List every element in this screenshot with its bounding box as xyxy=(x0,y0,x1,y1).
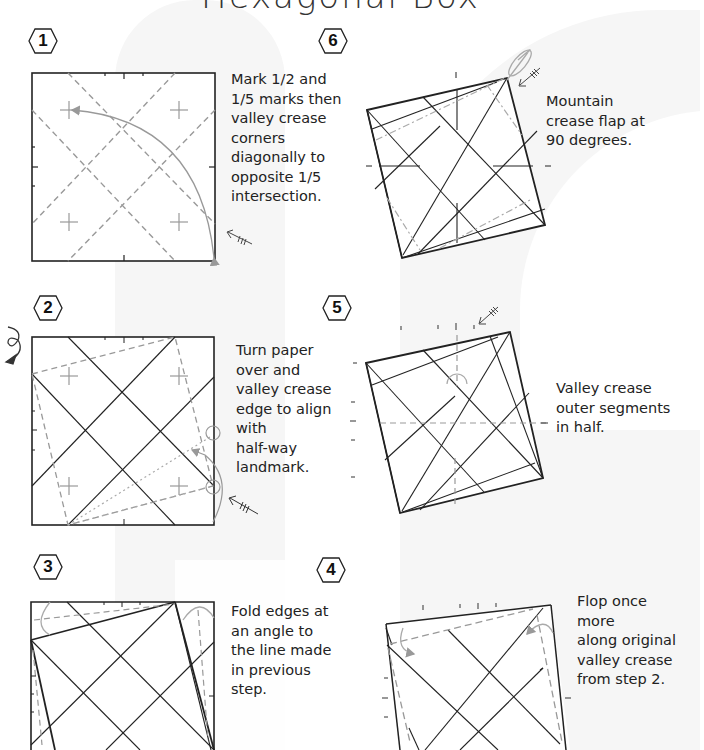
step-number: 3 xyxy=(33,553,63,581)
step-number: 2 xyxy=(33,294,63,322)
step-number: 1 xyxy=(28,27,58,55)
repeat-arrow-icon xyxy=(229,496,258,514)
step-1-caption: Mark 1/2 and 1/5 marks then valley creas… xyxy=(231,70,341,207)
repeat-arrow-icon xyxy=(519,68,540,86)
step-number: 5 xyxy=(322,294,352,322)
step-5-caption: Valley crease outer segments in half. xyxy=(556,379,670,438)
turn-over-arrow-icon xyxy=(6,327,20,364)
repeat-arrow-icon xyxy=(479,307,498,324)
step-badge-4: 4 xyxy=(316,556,346,584)
step-badge-5: 5 xyxy=(322,294,352,322)
step-2-caption: Turn paper over and valley crease edge t… xyxy=(236,341,332,478)
step-number: 4 xyxy=(316,556,346,584)
step-6-diagram xyxy=(366,47,551,258)
step-badge-3: 3 xyxy=(33,553,63,581)
step-badge-1: 1 xyxy=(28,27,58,55)
step-badge-2: 2 xyxy=(33,294,63,322)
step-4-caption: Flop once more along original valley cre… xyxy=(577,592,681,690)
step-2-diagram xyxy=(6,327,258,525)
step-5-diagram xyxy=(350,307,548,513)
step-3-diagram xyxy=(31,602,214,750)
repeat-arrow-icon xyxy=(227,230,252,245)
step-6-caption: Mountain crease flap at 90 degrees. xyxy=(546,92,645,151)
step-4-diagram xyxy=(382,603,571,750)
step-1-diagram xyxy=(32,73,252,261)
step-badge-6: 6 xyxy=(318,27,348,55)
step-3-caption: Fold edges at an angle to the line made … xyxy=(231,602,331,700)
step-number: 6 xyxy=(318,27,348,55)
